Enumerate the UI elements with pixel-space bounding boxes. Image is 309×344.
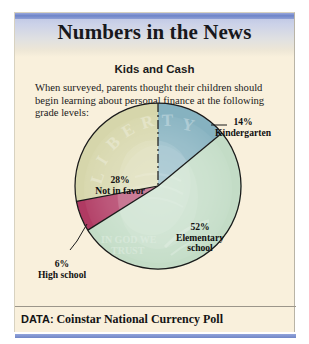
pie-chart: L I B E R T Y IN GOD WE TRUST [15, 57, 296, 291]
pie-label-kindergarten-name: Kindergarten [215, 127, 271, 138]
pie-chart-svg: L I B E R T Y IN GOD WE TRUST [15, 57, 296, 291]
pie-label-elementary-name-line1: Elementary [176, 232, 224, 243]
svg-text:TRUST: TRUST [111, 245, 145, 256]
pie-label-kindergarten-pct: 14% [233, 116, 252, 127]
pie-label-elementary-school: 52% Elementary school [162, 222, 238, 254]
footer-accent-bar [15, 334, 296, 338]
pie-label-kindergarten: 14% Kindergarten [193, 117, 293, 138]
header-accent-bar [15, 13, 294, 19]
card-footer: DATA: Coinstar National Currency Poll [15, 306, 296, 332]
pie-label-not-in-favor: 28% Not in favor [75, 175, 165, 196]
svg-text:IN GOD WE: IN GOD WE [101, 234, 157, 245]
pie-label-high-school-pct: 6% [55, 258, 69, 269]
page-title: Numbers in the News [15, 20, 294, 45]
pie-label-high-school-name: High school [38, 269, 86, 280]
leader-line-high-school [70, 224, 87, 250]
svg-text:T: T [161, 111, 174, 130]
pie-label-elementary-name-line2: school [187, 242, 213, 253]
data-source-name: Coinstar National Currency Poll [56, 312, 223, 326]
pie-label-high-school: 6% High school [19, 259, 105, 280]
data-source-line: DATA: Coinstar National Currency Poll [15, 307, 296, 332]
pie-label-not-in-favor-pct: 28% [110, 174, 129, 185]
card-body: Kids and Cash When surveyed, parents tho… [15, 57, 294, 291]
data-source-prefix: DATA: [21, 313, 54, 325]
news-graphic-card: Numbers in the News Kids and Cash When s… [14, 12, 295, 332]
card-header: Numbers in the News [15, 13, 294, 57]
pie-label-elementary-pct: 52% [190, 221, 209, 232]
pie-label-not-in-favor-name: Not in favor [95, 185, 145, 196]
